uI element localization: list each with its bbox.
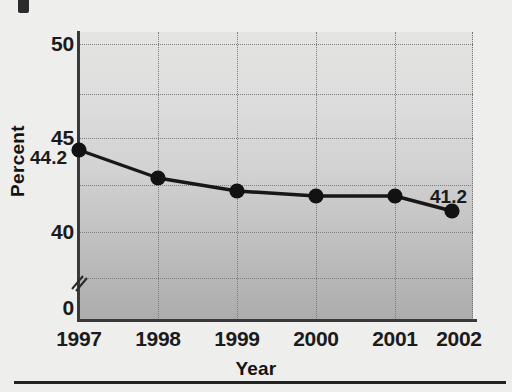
chart-figure: 50 45 40 0 44.2 41.2 1997 1998 1999 2000… bbox=[0, 0, 512, 392]
page-artifact-glyph bbox=[18, 0, 29, 13]
axis-break-icon bbox=[69, 272, 89, 296]
gridline-y-40 bbox=[79, 232, 473, 233]
gridline-x-2000 bbox=[316, 32, 317, 320]
x-axis-line bbox=[77, 319, 477, 322]
y-tick-0-label: 0 bbox=[63, 296, 74, 320]
gridline-y-42-5 bbox=[79, 185, 473, 186]
gridline-x-1999 bbox=[237, 32, 238, 320]
x-tick-1999: 1999 bbox=[214, 327, 260, 351]
gridline-y-50 bbox=[79, 44, 473, 45]
x-tick-1998: 1998 bbox=[135, 327, 181, 351]
data-label-1997: 44.2 bbox=[30, 147, 67, 169]
x-axis-title: Year bbox=[0, 358, 512, 380]
y-tick-50-label: 50 bbox=[51, 32, 74, 56]
data-label-2002: 41.2 bbox=[430, 186, 467, 208]
gridline-x-2001 bbox=[395, 32, 396, 320]
gridline-x-1998 bbox=[158, 32, 159, 320]
x-tick-2000: 2000 bbox=[293, 327, 339, 351]
gridline-y-45 bbox=[79, 138, 473, 139]
gridline-y-47-5 bbox=[79, 94, 473, 95]
y-axis-title: Percent bbox=[7, 101, 29, 221]
x-tick-2001: 2001 bbox=[372, 327, 418, 351]
y-tick-40-label: 40 bbox=[51, 220, 74, 244]
x-tick-2002: 2002 bbox=[436, 327, 482, 351]
gridline-y-break bbox=[79, 278, 473, 279]
x-tick-1997: 1997 bbox=[56, 327, 102, 351]
plot-area bbox=[79, 32, 473, 320]
page-bottom-rule bbox=[14, 381, 506, 384]
gridline-x-plot-right-edge bbox=[472, 32, 473, 320]
